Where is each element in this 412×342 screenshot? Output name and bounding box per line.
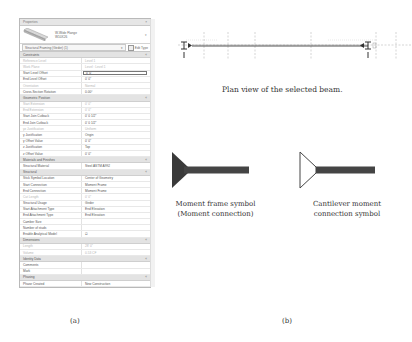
property-value-field[interactable]: Moment Frame xyxy=(82,188,150,193)
type-selector[interactable]: W-Wide Flange W10X26 ▾ xyxy=(20,26,150,44)
property-label: yz Justification xyxy=(20,126,82,131)
property-value-field: 0' 0" xyxy=(82,102,150,107)
property-label: z Offset Value xyxy=(20,151,82,156)
property-value-field[interactable]: 0' 0" xyxy=(83,71,147,75)
property-value-field[interactable] xyxy=(82,225,150,230)
group-name: Phasing xyxy=(23,275,35,279)
edit-type-button[interactable]: Edit Type xyxy=(128,45,148,51)
property-label: Structural Material xyxy=(20,163,82,168)
property-row: Phase CreatedNew Construction xyxy=(20,281,150,287)
property-value-field[interactable]: End Elevation xyxy=(82,213,150,218)
collapse-icon[interactable]: « xyxy=(145,170,147,174)
edit-type-label: Edit Type xyxy=(135,46,148,50)
palette-scrollbar[interactable] xyxy=(150,19,155,287)
caption-panel-a: (a) xyxy=(70,317,80,325)
beam-thumbnail-icon xyxy=(23,28,49,41)
property-label: Cut Length xyxy=(20,194,82,199)
property-value-field[interactable]: End Elevation xyxy=(82,207,150,212)
property-label: Length xyxy=(20,244,82,249)
property-label: Work Plane xyxy=(20,64,82,69)
property-label: Start Attachment Type xyxy=(20,207,82,212)
property-value-field[interactable] xyxy=(82,262,150,267)
property-label: Camber Size xyxy=(20,219,82,224)
group-name: Geometric Position xyxy=(23,96,50,100)
properties-palette: Properties × W-Wide Flange W10X26 ▾ Stru… xyxy=(19,18,151,288)
property-value-field[interactable]: ☑ xyxy=(82,231,150,236)
cantilever-moment-symbol-icon xyxy=(298,150,378,190)
property-value-field[interactable]: 0' 0 1/2" xyxy=(82,114,150,119)
caption-plan-view: Plan view of the selected beam. xyxy=(222,85,343,94)
group-name: Identity Data xyxy=(23,257,41,261)
property-value-field[interactable]: Top xyxy=(82,145,150,150)
property-value-field: 0' 0" xyxy=(82,108,150,113)
property-label: Number of studs xyxy=(20,225,82,230)
type-family: W-Wide Flange xyxy=(55,31,77,35)
property-label: y Offset Value xyxy=(20,139,82,144)
instance-filter-select[interactable]: Structural Framing (Girder) (1) ▾ xyxy=(22,44,126,51)
property-label: Phase Created xyxy=(20,281,82,286)
group-name: Dimensions xyxy=(23,238,40,242)
edit-type-icon xyxy=(128,45,134,51)
close-icon[interactable]: × xyxy=(145,20,147,24)
property-value-field: Level : Level 1 xyxy=(82,64,150,69)
chevron-down-icon[interactable]: ▾ xyxy=(145,33,147,37)
property-label: End Level Offset xyxy=(20,77,82,82)
chevron-down-icon: ▾ xyxy=(121,46,123,50)
palette-title: Properties xyxy=(23,20,38,24)
property-label: z Justification xyxy=(20,145,82,150)
collapse-icon[interactable]: « xyxy=(145,96,147,100)
beam-plan-view xyxy=(178,30,412,60)
property-label: Mark xyxy=(20,269,82,274)
column-icon xyxy=(181,42,187,49)
property-value-field: 28' 0" xyxy=(82,244,150,249)
caption-cantilever-line2: connection symbol xyxy=(297,210,397,220)
property-label: Cross-Section Rotation xyxy=(20,89,82,94)
property-label: End Connection xyxy=(20,188,82,193)
property-label: Start Join Cutback xyxy=(20,114,82,119)
property-value-field[interactable]: 0.00° xyxy=(82,89,150,94)
property-value-field[interactable]: 0' 0" xyxy=(82,139,150,144)
instance-filter-value: Structural Framing (Girder) (1) xyxy=(25,46,68,50)
property-value-field[interactable]: 0' 0" xyxy=(82,151,150,156)
property-value-field[interactable]: Origin xyxy=(82,132,150,137)
property-value-field[interactable]: Moment Frame xyxy=(82,182,150,187)
property-value-field: Normal xyxy=(82,83,150,88)
property-value-field[interactable]: 0' 0" xyxy=(82,77,150,82)
property-value-field[interactable]: New Construction xyxy=(82,281,150,286)
moment-frame-symbol-icon xyxy=(170,150,250,190)
property-label: End Attachment Type xyxy=(20,213,82,218)
property-label: Orientation xyxy=(20,83,82,88)
property-value-field[interactable] xyxy=(82,269,150,274)
caption-panel-b: (b) xyxy=(282,317,292,325)
collapse-icon[interactable]: « xyxy=(145,53,147,57)
collapse-icon[interactable]: « xyxy=(145,275,147,279)
property-value-field: Level 1 xyxy=(82,58,150,63)
caption-cantilever-symbol: Cantilever moment connection symbol xyxy=(297,200,397,219)
property-label: End Extension xyxy=(20,108,82,113)
caption-cantilever-line1: Cantilever moment xyxy=(297,200,397,210)
property-value-field[interactable]: Girder xyxy=(82,201,150,206)
collapse-icon[interactable]: « xyxy=(145,158,147,162)
property-label: Start Extension xyxy=(20,102,82,107)
property-label: Start Connection xyxy=(20,182,82,187)
property-value-field[interactable]: Steel ASTM A992 xyxy=(82,163,150,168)
property-label: Structural Usage xyxy=(20,201,82,206)
property-value-field[interactable]: 0' 0 1/2" xyxy=(82,120,150,125)
property-value-field[interactable]: Center of Geometry xyxy=(82,176,150,181)
property-groups: Constraints«Reference LevelLevel 1Work P… xyxy=(20,52,150,287)
type-name: W10X26 xyxy=(55,35,77,39)
property-label: y Justification xyxy=(20,132,82,137)
caption-moment-symbol: Moment frame symbol (Moment connection) xyxy=(163,200,268,219)
group-name: Materials and Finishes xyxy=(23,158,55,162)
caption-moment-line1: Moment frame symbol xyxy=(163,200,268,210)
property-value-field: Uniform xyxy=(82,126,150,131)
collapse-icon[interactable]: « xyxy=(145,238,147,242)
instance-filter-row: Structural Framing (Girder) (1) ▾ Edit T… xyxy=(20,44,150,52)
property-label: End Join Cutback xyxy=(20,120,82,125)
collapse-icon[interactable]: « xyxy=(145,257,147,261)
property-label: Volume xyxy=(20,250,82,255)
property-value-field[interactable] xyxy=(82,219,150,224)
property-label: Comments xyxy=(20,262,82,267)
caption-moment-line2: (Moment connection) xyxy=(163,210,268,220)
property-value-field: 0' 0" xyxy=(82,194,150,199)
